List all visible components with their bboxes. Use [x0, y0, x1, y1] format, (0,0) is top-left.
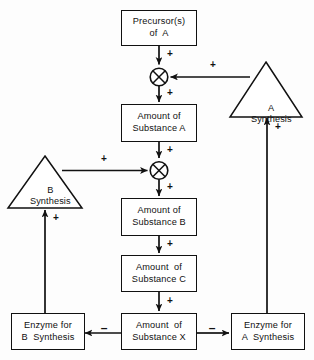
node-amount-x-line2: Substance X: [132, 332, 186, 344]
sign-amount-a-to-junction-b: +: [164, 145, 176, 155]
sign-a-synthesis-to-junction-a: +: [207, 60, 219, 70]
diagram-canvas: Precursor(s) of A Amount of Substance A …: [0, 0, 314, 360]
node-amount-x-line1: Amount of: [136, 320, 182, 332]
node-precursors-line2: of A: [149, 28, 168, 40]
node-enzyme-b-line2: B Synthesis: [22, 332, 75, 344]
node-amount-c-line1: Amount of: [136, 262, 182, 274]
node-enzyme-for-a-synthesis[interactable]: Enzyme for A Synthesis: [231, 313, 305, 350]
node-amount-substance-c[interactable]: Amount of Substance C: [121, 255, 197, 292]
node-amount-b-line2: Substance B: [132, 217, 186, 229]
node-precursors-line1: Precursor(s): [133, 16, 185, 28]
sign-junction-a-to-amount-a: +: [164, 88, 176, 98]
node-enzyme-for-b-synthesis[interactable]: Enzyme for B Synthesis: [11, 313, 85, 350]
node-amount-a-line1: Amount of: [137, 111, 180, 123]
b-synthesis-line2: Synthesis: [30, 196, 71, 206]
sign-precursors-to-junction-a: +: [164, 49, 176, 59]
sign-enzyme-a-to-a-synthesis: +: [272, 122, 284, 132]
sign-enzyme-b-to-b-synthesis: +: [50, 213, 62, 223]
node-enzyme-b-line1: Enzyme for: [24, 320, 72, 332]
node-amount-substance-b[interactable]: Amount of Substance B: [121, 198, 197, 236]
node-amount-a-line2: Substance A: [132, 123, 185, 135]
node-b-synthesis-label[interactable]: B Synthesis: [11, 173, 79, 219]
a-synthesis-line1: A: [268, 103, 274, 113]
node-amount-b-line1: Amount of: [137, 205, 180, 217]
node-amount-substance-x[interactable]: Amount of Substance X: [121, 313, 197, 350]
sign-b-synthesis-to-junction-b: +: [98, 154, 110, 164]
sign-amount-x-to-enzyme-b: –: [98, 322, 110, 334]
node-amount-substance-a[interactable]: Amount of Substance A: [121, 104, 197, 142]
node-enzyme-a-line1: Enzyme for: [244, 320, 292, 332]
sign-amount-x-to-enzyme-a: –: [206, 322, 218, 334]
sign-amount-c-to-amount-x: +: [164, 296, 176, 306]
b-synthesis-line1: B: [47, 185, 53, 195]
node-enzyme-a-line2: A Synthesis: [242, 332, 294, 344]
sign-amount-b-to-amount-c: +: [164, 239, 176, 249]
node-a-synthesis-label[interactable]: A Synthesis: [232, 91, 300, 137]
sign-junction-b-to-amount-b: +: [164, 182, 176, 192]
node-precursors[interactable]: Precursor(s) of A: [121, 10, 197, 46]
node-amount-c-line2: Substance C: [132, 274, 186, 286]
